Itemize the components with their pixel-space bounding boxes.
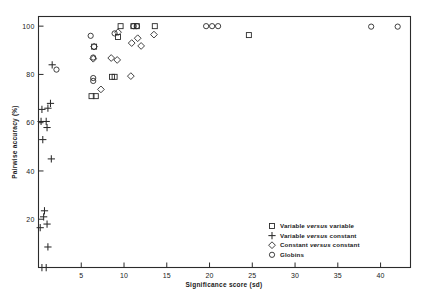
data-point-plus-6 — [37, 224, 44, 231]
chart-legend: Variable versus variableVariable versus … — [268, 222, 359, 258]
legend-label-1: Variable versus constant — [280, 232, 357, 239]
data-point-diamond-2 — [98, 86, 105, 93]
legend-label-0: Variable versus variable — [280, 222, 355, 229]
x-tick-label-35: 35 — [334, 272, 342, 279]
data-point-plus-7 — [48, 155, 55, 162]
data-point-circle-1 — [88, 33, 93, 38]
data-point-diamond-4 — [114, 57, 121, 64]
data-point-circle-0 — [54, 67, 59, 72]
plot-frame — [39, 17, 411, 268]
y-tick-label-20: 20 — [26, 216, 34, 223]
x-axis-title: Significance score (sd) — [186, 281, 263, 289]
data-point-square-10 — [246, 33, 251, 38]
y-tick-label-60: 60 — [26, 119, 34, 126]
legend-marker-diamond — [269, 242, 276, 249]
data-point-square-8 — [152, 24, 157, 29]
x-tick-label-20: 20 — [205, 272, 213, 279]
data-point-plus-5 — [41, 207, 48, 214]
data-point-diamond-9 — [151, 31, 158, 38]
series-circle — [54, 24, 400, 84]
data-point-plus-9 — [43, 124, 50, 131]
legend-marker-square — [270, 224, 275, 229]
series-square — [89, 24, 251, 99]
y-tick-label-100: 100 — [22, 23, 34, 30]
data-point-circle-10 — [215, 24, 220, 29]
data-point-circle-11 — [369, 24, 374, 29]
data-point-circle-12 — [395, 24, 400, 29]
data-point-plus-3 — [43, 220, 50, 227]
x-tick-label-40: 40 — [376, 272, 384, 279]
data-point-plus-12 — [38, 106, 45, 113]
data-point-plus-11 — [43, 118, 50, 125]
data-point-circle-7 — [134, 24, 139, 29]
legend-label-2: Constant versus constant — [280, 241, 360, 248]
data-point-plus-1 — [43, 264, 50, 271]
data-point-diamond-8 — [138, 43, 145, 50]
x-axis-ticks — [81, 263, 380, 268]
data-point-diamond-10 — [128, 40, 135, 47]
data-point-diamond-6 — [127, 73, 134, 80]
data-point-diamond-3 — [108, 55, 115, 62]
y-tick-label-80: 80 — [26, 71, 34, 78]
y-tick-label-40: 40 — [26, 168, 34, 175]
x-tick-label-10: 10 — [120, 272, 128, 279]
data-point-circle-9 — [209, 24, 214, 29]
data-point-plus-8 — [39, 136, 46, 143]
legend-marker-plus — [268, 232, 275, 239]
data-point-diamond-7 — [134, 35, 141, 42]
y-axis-tick-labels: 20406080100 — [22, 23, 34, 223]
x-tick-label-30: 30 — [291, 272, 299, 279]
legend-marker-circle — [269, 252, 274, 257]
scatter-plot-figure: 510152025303540 20406080100 Variable ver… — [0, 0, 428, 302]
data-point-plus-2 — [44, 243, 51, 250]
x-tick-label-5: 5 — [79, 272, 83, 279]
x-tick-label-25: 25 — [248, 272, 256, 279]
x-tick-label-15: 15 — [163, 272, 171, 279]
x-axis-tick-labels: 510152025303540 — [79, 272, 384, 279]
data-point-square-5 — [118, 24, 123, 29]
data-point-circle-8 — [203, 24, 208, 29]
y-axis-title: Pairwise accuracy (%) — [11, 105, 19, 179]
series-diamond — [90, 29, 157, 93]
series-plus — [37, 61, 56, 271]
chart-canvas: 510152025303540 20406080100 Variable ver… — [0, 0, 428, 302]
legend-label-3: Globins — [280, 251, 304, 258]
